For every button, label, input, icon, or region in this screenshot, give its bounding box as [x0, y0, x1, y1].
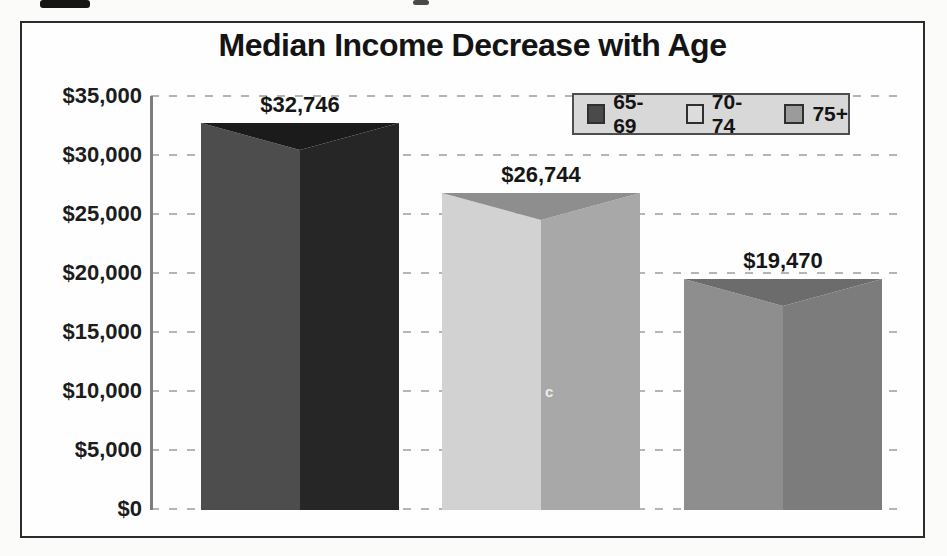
scanned-bar-chart-page: Median Income Decrease with Age $35,000$… [0, 0, 947, 556]
legend-label: 70-74 [712, 90, 760, 138]
bar-left-face [201, 123, 300, 510]
scan-smudge [413, 0, 429, 5]
bar-value-label: $26,744 [412, 162, 670, 188]
bar-right-face [541, 193, 640, 510]
y-tick-label: $30,000 [26, 143, 142, 167]
bar-75+ [684, 279, 882, 510]
y-tick-label: $35,000 [26, 84, 142, 108]
legend-label: 75+ [812, 102, 848, 126]
y-tick-label: $20,000 [26, 261, 142, 285]
scan-smudge [40, 0, 90, 8]
y-tick-label: $15,000 [26, 320, 142, 344]
bar-70-74 [442, 193, 640, 510]
bar-left-face [684, 279, 783, 510]
legend-swatch [686, 104, 704, 124]
legend-item-70-74: 70-74 [686, 90, 760, 138]
y-tick-label: $10,000 [26, 379, 142, 403]
scan-artifact-mark: c [545, 383, 553, 400]
y-tick-label: $25,000 [26, 202, 142, 226]
y-axis-line [150, 96, 153, 510]
bar-value-label: $32,746 [171, 92, 429, 118]
legend-swatch [587, 104, 605, 124]
legend-swatch [784, 104, 804, 124]
chart-title: Median Income Decrease with Age [20, 27, 925, 64]
y-tick-label: $0 [26, 497, 142, 521]
bar-65-69 [201, 123, 399, 510]
legend: 65-6970-7475+ [572, 93, 850, 135]
y-tick-label: $5,000 [26, 438, 142, 462]
bar-right-face [783, 279, 882, 510]
bar-left-face [442, 193, 541, 510]
legend-label: 65-69 [613, 90, 661, 138]
legend-item-65-69: 65-69 [587, 90, 661, 138]
bar-value-label: $19,470 [654, 248, 912, 274]
bar-right-face [300, 123, 399, 510]
legend-item-75+: 75+ [784, 102, 848, 126]
